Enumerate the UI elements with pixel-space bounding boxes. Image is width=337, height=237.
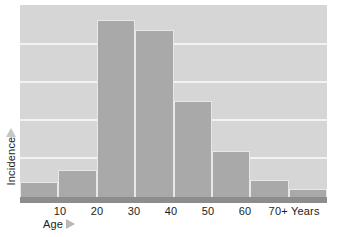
y-axis-title: Incidence [0,125,20,215]
bar-60-70 [250,180,288,197]
bar-50-60 [212,151,250,197]
x-tick-label: 50 [202,205,215,217]
bar-0-10 [20,182,58,197]
histogram-chart: 10 20 30 40 50 60 70+ Years Age Incidenc… [0,0,337,237]
plot-area [20,5,327,197]
x-tick-label: 60 [239,205,252,217]
bar-70plus [289,189,327,197]
x-tick-label: 40 [165,205,178,217]
bar-10-20 [58,170,96,197]
x-tick-label: 30 [128,205,141,217]
bar-30-40 [135,30,173,197]
bar-40-50 [174,101,212,197]
y-axis-title-label: Incidence [5,128,17,194]
x-tick-label: 70+ Years [269,205,320,217]
bar-20-30 [97,20,135,197]
x-tick-label: 10 [54,205,67,217]
x-tick-label: 20 [91,205,104,217]
x-axis-title: Age [43,218,75,230]
triangle-right-icon [66,219,75,229]
x-axis-bar [20,197,327,203]
x-axis-title-label: Age [43,218,63,230]
